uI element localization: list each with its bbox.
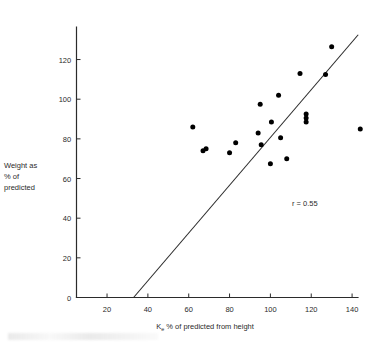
y-tick-label-120: 120 [59,56,72,65]
y-axis-tick-labels: 020406080100120 [59,56,72,303]
data-point [276,93,281,98]
data-point [227,150,232,155]
y-axis-title-line2: % of [4,172,20,181]
axes [77,27,359,298]
correlation-annotation: r = 0.55 [292,199,318,208]
plot-canvas: 20406080100120140 020406080100120 Ke % o… [0,0,369,346]
data-point [233,140,238,145]
data-point [278,135,283,140]
data-point [190,124,195,129]
page-artifact-smudge [8,333,158,340]
y-axis-title-line3: predicted [4,183,35,192]
y-tick-label-0: 0 [67,294,71,303]
data-point [284,156,289,161]
data-point [204,146,209,151]
data-point [304,120,309,125]
y-tick-label-80: 80 [63,135,71,144]
x-tick-label-20: 20 [103,305,111,314]
x-tick-label-40: 40 [144,305,152,314]
data-point [329,44,334,49]
x-tick-label-80: 80 [225,305,233,314]
data-point [269,120,274,125]
data-point [258,102,263,107]
y-tick-label-60: 60 [63,175,71,184]
data-point [323,72,328,77]
data-point [358,126,363,131]
y-axis-title-line1: Weight as [4,161,37,170]
data-point [268,161,273,166]
data-point [298,71,303,76]
y-tick-label-40: 40 [63,214,71,223]
x-tick-label-100: 100 [264,305,277,314]
x-tick-label-140: 140 [346,305,359,314]
x-tick-label-120: 120 [305,305,318,314]
y-tick-label-20: 20 [63,254,71,263]
x-axis-tick-labels: 20406080100120140 [103,305,358,314]
y-tick-label-100: 100 [59,95,72,104]
data-points [190,44,362,166]
scatter-plot-figure: 20406080100120140 020406080100120 Ke % o… [0,0,369,346]
data-point [259,142,264,147]
data-point [256,130,261,135]
x-tick-label-60: 60 [185,305,193,314]
x-axis-title: Ke % of predicted from height [156,322,255,332]
